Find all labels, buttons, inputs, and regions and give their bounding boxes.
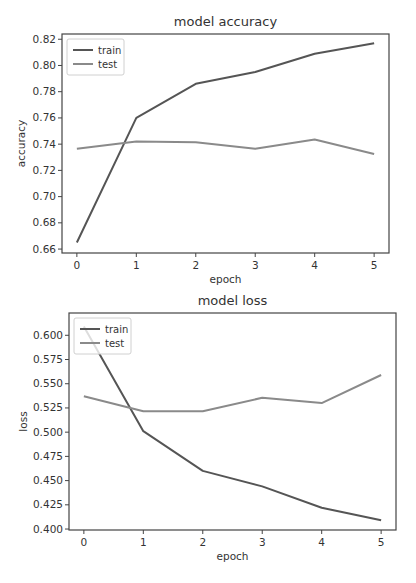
- y-tick-label: 0.550: [33, 377, 63, 389]
- x-tick-label: 0: [74, 259, 81, 271]
- y-tick-label: 0.600: [33, 329, 63, 341]
- x-axis-label: epoch: [210, 273, 242, 285]
- y-tick-label: 0.450: [33, 474, 63, 486]
- y-tick-label: 0.475: [33, 450, 63, 462]
- chart-title: model accuracy: [174, 14, 278, 29]
- loss-chart-svg: model loss0123450.4000.4250.4500.4750.50…: [0, 290, 416, 583]
- x-tick-label: 5: [371, 259, 378, 271]
- y-tick-label: 0.70: [33, 190, 56, 202]
- x-tick-label: 0: [81, 536, 88, 548]
- x-tick-label: 3: [252, 259, 259, 271]
- y-tick-label: 0.76: [33, 111, 57, 123]
- y-tick-label: 0.500: [33, 426, 63, 438]
- y-tick-label: 0.74: [33, 138, 57, 150]
- accuracy-chart: model accuracy0123450.660.680.700.720.74…: [0, 0, 416, 290]
- x-axis-label: epoch: [217, 550, 249, 562]
- x-tick-label: 2: [192, 259, 199, 271]
- legend-label-test: test: [105, 338, 124, 349]
- loss-chart: model loss0123450.4000.4250.4500.4750.50…: [0, 290, 416, 583]
- legend-label-train: train: [98, 45, 121, 56]
- x-tick-label: 5: [378, 536, 385, 548]
- y-tick-label: 0.82: [33, 33, 56, 45]
- x-tick-label: 2: [199, 536, 206, 548]
- y-tick-label: 0.400: [33, 523, 63, 535]
- x-tick-label: 4: [318, 536, 325, 548]
- x-tick-label: 4: [311, 259, 318, 271]
- x-tick-label: 1: [133, 259, 140, 271]
- accuracy-chart-svg: model accuracy0123450.660.680.700.720.74…: [0, 0, 416, 290]
- y-tick-label: 0.66: [33, 243, 57, 255]
- x-tick-label: 1: [140, 536, 147, 548]
- y-axis-label: loss: [17, 411, 29, 431]
- legend-label-test: test: [98, 59, 117, 70]
- x-tick-label: 3: [259, 536, 266, 548]
- y-tick-label: 0.78: [33, 85, 56, 97]
- legend-label-train: train: [105, 324, 128, 335]
- chart-title: model loss: [198, 293, 268, 308]
- y-axis-label: accuracy: [15, 120, 27, 167]
- y-tick-label: 0.80: [33, 59, 56, 71]
- y-tick-label: 0.575: [33, 353, 63, 365]
- series-line-train: [84, 327, 381, 521]
- y-tick-label: 0.68: [33, 216, 56, 228]
- y-tick-label: 0.72: [33, 164, 56, 176]
- y-tick-label: 0.425: [33, 498, 63, 510]
- y-tick-label: 0.525: [33, 401, 63, 413]
